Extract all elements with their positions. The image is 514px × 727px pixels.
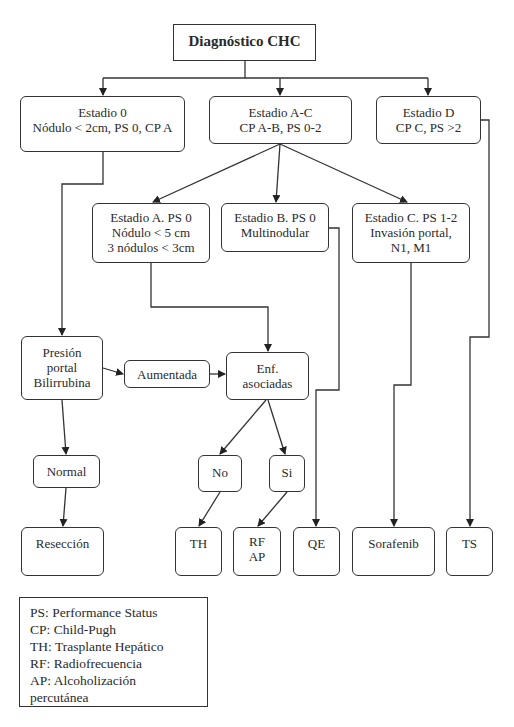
node-line: Estadio B. PS 0	[222, 210, 328, 225]
legend-line: RF: Radiofrecuencia	[30, 655, 197, 672]
node-line: RF	[234, 534, 280, 549]
node-qe: QE	[293, 527, 340, 576]
node-reseccion: Resección	[21, 527, 104, 576]
node-line: portal	[22, 360, 102, 375]
node-presion-portal: Presión portal Bilirrubina	[21, 336, 103, 400]
node-th: TH	[175, 527, 222, 576]
node-line: N1, M1	[353, 240, 469, 255]
node-estadio-c: Estadio C. PS 1-2 Invasión portal, N1, M…	[352, 203, 470, 263]
node-line: TH	[176, 536, 221, 551]
node-line: Estadio C. PS 1-2	[353, 210, 469, 225]
node-line: QE	[294, 536, 339, 551]
node-normal: Normal	[33, 455, 100, 488]
node-line: Estadio 0	[21, 105, 184, 120]
node-line: Multinodular	[222, 225, 328, 240]
node-line: Estadio A-C	[210, 105, 351, 120]
node-line: Normal	[34, 464, 99, 479]
node-line: Nódulo < 5 cm	[93, 225, 209, 240]
chc-treatment-flowchart: Diagnóstico CHC Estadio 0 Nódulo < 2cm, …	[0, 0, 514, 727]
node-estadio-b: Estadio B. PS 0 Multinodular	[221, 203, 329, 252]
legend-line: percutánea	[30, 689, 197, 706]
node-line: Estadio A. PS 0	[93, 210, 209, 225]
node-line: Si	[270, 465, 304, 480]
node-rf-ap: RF AP	[233, 527, 281, 576]
node-estadio-a-c: Estadio A-C CP A-B, PS 0-2	[209, 96, 352, 144]
legend-line: PS: Performance Status	[30, 604, 197, 621]
node-line: Bilirrubina	[22, 375, 102, 390]
node-line: Invasión portal,	[353, 225, 469, 240]
node-line: Estadio D	[377, 105, 480, 120]
node-enf-asociadas: Enf. asociadas	[226, 352, 309, 400]
node-line: CP C, PS >2	[377, 120, 480, 135]
node-line: Enf.	[227, 361, 308, 376]
legend-line: TH: Trasplante Hepático	[30, 638, 197, 655]
abbreviations-legend: PS: Performance Status CP: Child-Pugh TH…	[19, 597, 208, 707]
node-line: asociadas	[227, 376, 308, 391]
node-line: Sorafenib	[353, 536, 434, 551]
node-line: CP A-B, PS 0-2	[210, 120, 351, 135]
diagnosis-title: Diagnóstico CHC	[188, 33, 300, 49]
node-estadio-d: Estadio D CP C, PS >2	[376, 96, 481, 144]
node-line: Resección	[22, 536, 103, 551]
node-ts: TS	[446, 527, 493, 576]
node-line: Presión	[22, 345, 102, 360]
node-line: TS	[447, 536, 492, 551]
diagnosis-title-box: Diagnóstico CHC	[173, 24, 316, 61]
node-si: Si	[269, 455, 305, 492]
legend-line: AP: Alcoholización	[30, 672, 197, 689]
node-no: No	[198, 455, 242, 492]
node-line: Nódulo < 2cm, PS 0, CP A	[21, 120, 184, 135]
node-aumentada: Aumentada	[124, 360, 210, 388]
node-estadio-0: Estadio 0 Nódulo < 2cm, PS 0, CP A	[20, 96, 185, 152]
node-estadio-a: Estadio A. PS 0 Nódulo < 5 cm 3 nódulos …	[92, 203, 210, 263]
node-line: AP	[234, 549, 280, 564]
legend-line: CP: Child-Pugh	[30, 621, 197, 638]
node-line: 3 nódulos < 3cm	[93, 240, 209, 255]
node-line: Aumentada	[125, 367, 209, 382]
node-line: No	[199, 465, 241, 480]
node-sorafenib: Sorafenib	[352, 527, 435, 576]
